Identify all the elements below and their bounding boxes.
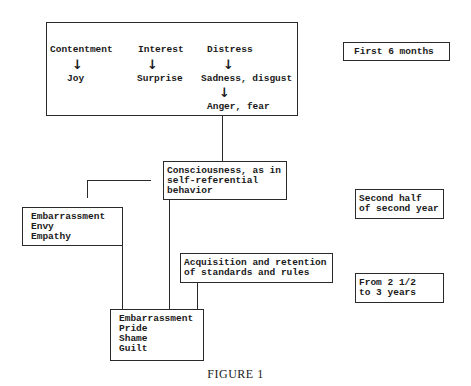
evaluative-emotions-text: Embarrassment Pride Shame Guilt (119, 314, 193, 354)
connector-line (169, 200, 170, 309)
emotion-distress: Distress (207, 45, 253, 55)
figure-caption: FIGURE 1 (0, 367, 471, 382)
emotion-anger-fear: Anger, fear (207, 102, 270, 112)
emotion-contentment: Contentment (50, 45, 113, 55)
connector-line (197, 283, 198, 309)
connector-line (87, 180, 88, 198)
emotion-joy: Joy (67, 74, 84, 84)
period-line: to 3 years (359, 288, 416, 298)
connector-line (87, 180, 151, 181)
arrow-down-icon: ↓ (147, 58, 158, 71)
emotion-interest: Interest (138, 45, 184, 55)
consciousness-line: behavior (167, 186, 281, 196)
standards-line: of standards and rules (184, 268, 327, 278)
arrow-down-icon: ↓ (72, 58, 83, 71)
standards-text: Acquisition and retention of standards a… (184, 258, 327, 278)
exposed-emotion: Empathy (31, 232, 105, 242)
period-third-text: From 2 1/2 to 3 years (359, 278, 416, 298)
arrow-down-icon: ↓ (223, 58, 234, 71)
emotion-surprise: Surprise (137, 74, 183, 84)
consciousness-text: Consciousness, as in self-referential be… (167, 166, 281, 196)
connector-line (122, 246, 123, 309)
emotion-sadness-disgust: Sadness, disgust (201, 74, 292, 84)
exposed-emotions-text: Embarrassment Envy Empathy (31, 212, 105, 242)
period-line: of second year (359, 204, 439, 214)
arrow-down-icon: ↓ (219, 86, 230, 99)
connector-line (222, 116, 223, 162)
period-second-half-text: Second half of second year (359, 194, 439, 214)
period-first-6-months-label: First 6 months (354, 47, 434, 57)
evaluative-emotion: Guilt (119, 344, 193, 354)
